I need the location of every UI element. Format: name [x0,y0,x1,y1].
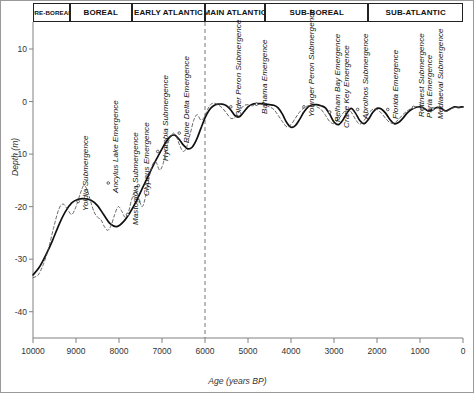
event-marker-dot [77,200,80,203]
y-axis-title: Depth (m) [10,138,20,176]
event-label: Hydrobia Submergence [161,75,170,161]
y-tick-label: 0 [22,97,27,107]
event-label: Pelham Bay Emergence [333,34,342,122]
event-marker-dot [255,103,258,106]
x-tick-label: 6000 [196,346,215,356]
y-tick-label: -20 [15,202,27,212]
event-marker-dot [126,213,129,216]
event-label: Younger Peron Submergence [307,9,316,117]
x-tick-label: 9000 [67,346,86,356]
x-tick-label: 0 [461,346,466,356]
event-label: Older Peron Submergence [234,19,243,116]
curve-smoothed-solid [33,104,463,275]
x-tick-label: 3000 [325,346,344,356]
x-tick-label: 10000 [21,346,45,356]
x-tick-label: 1000 [411,346,430,356]
sea-level-curve-figure: PRE-BOREALBOREALEARLY ATLANTICMAIN ATLAN… [0,0,475,394]
event-label: Florida Emergence [391,50,400,119]
event-marker-dot [386,108,389,111]
event-label: Crane Key Emergence [342,46,351,129]
y-tick-label: -30 [15,254,27,264]
event-label: Paria Emergence [425,55,434,118]
event-marker-dot [178,132,181,135]
event-marker-dot [328,111,331,114]
x-tick-label: 4000 [282,346,301,356]
event-marker-dot [412,106,415,109]
y-tick-label: 10 [18,44,27,54]
event-marker-dot [156,150,159,153]
event-label: Ancylus Lake Emergence [111,100,120,193]
event-marker-dot [107,182,110,185]
event-label: Abrolhos Submergence [361,34,370,120]
event-marker-dot [230,106,233,109]
x-tick-label: 2000 [368,346,387,356]
event-label: Mastogloia Submergence [131,132,140,225]
event-label: Mediaeval Submergence [436,28,445,119]
event-label: Clypeus Emergence [142,122,151,196]
event-label: Rhine Delta Emergence [182,56,191,143]
x-tick-label: 5000 [239,346,258,356]
curve-detailed-dashed [33,103,463,277]
event-marker-dot [303,106,306,109]
x-axis-title: Age (years BP) [0,376,475,386]
event-marker-dot [356,108,359,111]
y-tick-label: -40 [15,307,27,317]
event-label: Yoldia Submergence [81,136,90,212]
x-tick-label: 8000 [110,346,129,356]
event-label: Bahama Emergence [260,40,269,115]
x-tick-label: 7000 [153,346,172,356]
